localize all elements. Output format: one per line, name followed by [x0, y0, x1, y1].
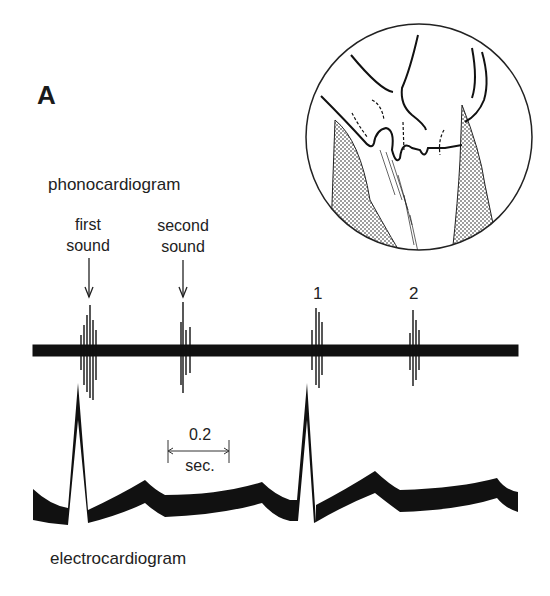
phonocardiogram-trace — [33, 302, 518, 400]
second-sound-arrow-icon — [179, 260, 187, 297]
heart-valve-inset — [321, 35, 500, 260]
electrocardiogram-trace — [33, 383, 518, 525]
first-sound-arrow-icon — [85, 258, 93, 297]
figure-graphics — [0, 0, 550, 596]
scale-bar — [168, 440, 229, 463]
